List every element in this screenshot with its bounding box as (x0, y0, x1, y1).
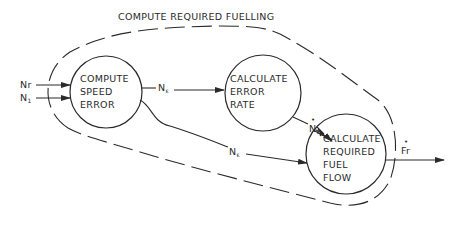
output-fr: • Fr (386, 138, 444, 160)
svg-text:REQUIRED: REQUIRED (323, 146, 375, 157)
node-calculate-error-rate: CALCULATE ERROR RATE (225, 55, 301, 131)
input-n1-label: N1 (20, 92, 32, 104)
flow-label-n-epsilon-lower: Nε (229, 146, 240, 158)
node-calculate-required-fuel-flow: CALCULATE REQUIRED FUEL FLOW (306, 114, 386, 194)
svg-text:FLOW: FLOW (323, 172, 352, 183)
svg-text:RATE: RATE (230, 99, 255, 110)
boundary-title: COMPUTE REQUIRED FUELLING (118, 11, 274, 22)
input-nr-label: Nr (20, 79, 32, 90)
flow-label-n-epsilon: Nε (158, 82, 169, 94)
svg-text:CALCULATE: CALCULATE (323, 133, 381, 144)
flow-speed-error-to-error-rate: Nε (142, 82, 224, 94)
svg-text:ERROR: ERROR (80, 99, 115, 110)
svg-text:FUEL: FUEL (323, 159, 348, 170)
data-flow-diagram: COMPUTE REQUIRED FUELLING Nr N1 COMPUTE … (0, 0, 464, 225)
svg-text:•: • (311, 116, 315, 124)
svg-text:COMPUTE: COMPUTE (80, 73, 129, 84)
output-fr-label: Fr (401, 145, 410, 156)
svg-text:CALCULATE: CALCULATE (230, 73, 288, 84)
svg-text:SPEED: SPEED (80, 86, 113, 97)
input-n1: N1 (20, 92, 70, 104)
svg-text:ERROR: ERROR (230, 86, 265, 97)
node-compute-speed-error: COMPUTE SPEED ERROR (70, 56, 142, 128)
input-nr: Nr (20, 79, 70, 90)
